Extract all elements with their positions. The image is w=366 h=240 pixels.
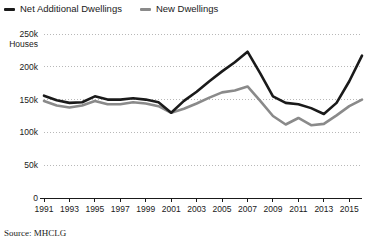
x-axis-tick-label: 2015 bbox=[340, 204, 359, 214]
chart-legend: Net Additional Dwellings New Dwellings bbox=[4, 2, 218, 16]
x-axis-tick-label: 1999 bbox=[136, 204, 155, 214]
y-axis-unit-label: Houses bbox=[9, 39, 38, 49]
y-axis-tick-labels: 050k100k150k200k250k bbox=[20, 29, 39, 203]
x-axis-tick-label: 1995 bbox=[85, 204, 104, 214]
line-swatch-icon bbox=[4, 8, 15, 11]
legend-item-new-dwellings: New Dwellings bbox=[140, 4, 218, 14]
data-series-group bbox=[44, 52, 362, 125]
series-line bbox=[44, 86, 362, 125]
x-axis-tick-label: 1993 bbox=[60, 204, 79, 214]
line-chart: 050k100k150k200k250k Houses 199119931995… bbox=[0, 18, 366, 218]
x-axis-tick-label: 2009 bbox=[263, 204, 282, 214]
x-axis-tick-label: 2001 bbox=[162, 204, 181, 214]
source-note: Source: MHCLG bbox=[4, 228, 66, 239]
series-line bbox=[44, 52, 362, 114]
y-axis-tick-label: 100k bbox=[20, 127, 39, 137]
x-axis-tick-label: 2005 bbox=[213, 204, 232, 214]
x-axis-tick-label: 1997 bbox=[111, 204, 130, 214]
chart-canvas: 050k100k150k200k250k Houses 199119931995… bbox=[0, 18, 366, 218]
x-axis-tick-label: 1991 bbox=[35, 204, 54, 214]
legend-item-net-additional-dwellings: Net Additional Dwellings bbox=[4, 4, 122, 14]
x-axis-tick-label: 2003 bbox=[187, 204, 206, 214]
legend-label: Net Additional Dwellings bbox=[20, 4, 122, 14]
line-swatch-icon bbox=[140, 8, 151, 11]
x-axis-tick-label: 2013 bbox=[314, 204, 333, 214]
x-axis-tick-marks bbox=[44, 198, 349, 202]
y-axis-tick-label: 0 bbox=[33, 193, 38, 203]
y-axis-tick-label: 50k bbox=[24, 160, 38, 170]
legend-label: New Dwellings bbox=[156, 4, 218, 14]
y-axis-tick-label: 200k bbox=[20, 62, 39, 72]
x-axis-tick-label: 2007 bbox=[238, 204, 257, 214]
y-axis-tick-label: 150k bbox=[20, 95, 39, 105]
x-axis-tick-labels: 1991199319951997199920012003200520072009… bbox=[35, 204, 359, 214]
y-axis-tick-label: 250k bbox=[20, 29, 39, 39]
x-axis-tick-label: 2011 bbox=[289, 204, 308, 214]
